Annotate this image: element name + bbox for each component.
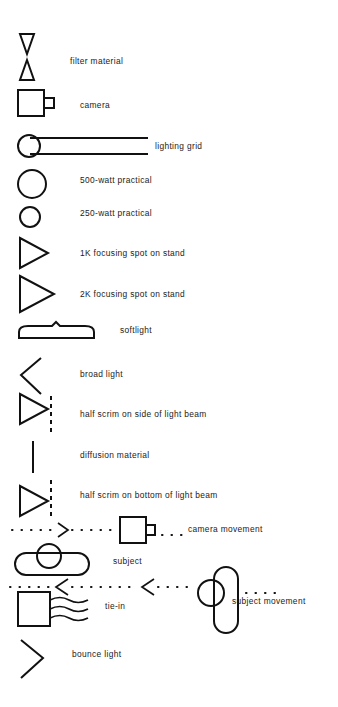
filter-material-label: filter material: [70, 57, 123, 65]
lighting-grid-symbol: [16, 133, 150, 159]
lighting-grid-label: lighting grid: [155, 142, 202, 150]
subject-movement-label: subject movement: [232, 597, 306, 605]
500-watt-practical-symbol: [16, 168, 48, 200]
half-scrim-side-symbol: [17, 392, 55, 436]
softlight-symbol: [16, 320, 98, 344]
2k-focusing-spot-label: 2K focusing spot on stand: [80, 290, 185, 298]
1k-focusing-spot-symbol: [17, 236, 51, 270]
tie-in-symbol: [16, 588, 102, 630]
diffusion-material-label: diffusion material: [80, 451, 149, 459]
camera-symbol: [16, 88, 58, 118]
250-watt-practical-label: 250-watt practical: [80, 209, 152, 217]
lighting-symbol-legend: filter material camera lighting grid 500…: [0, 0, 338, 707]
filter-material-symbol: [16, 32, 42, 82]
250-watt-practical-symbol: [18, 205, 42, 229]
camera-movement-label: camera movement: [188, 525, 263, 533]
2k-focusing-spot-symbol: [17, 274, 57, 314]
1k-focusing-spot-label: 1K focusing spot on stand: [80, 249, 185, 257]
camera-label: camera: [80, 101, 110, 109]
camera-movement-symbol: [8, 513, 188, 545]
500-watt-practical-label: 500-watt practical: [80, 176, 152, 184]
softlight-label: softlight: [120, 326, 152, 334]
half-scrim-side-label: half scrim on side of light beam: [80, 410, 207, 418]
tie-in-label: tie-in: [105, 602, 125, 610]
half-scrim-bottom-label: half scrim on bottom of light beam: [80, 491, 218, 499]
broad-light-symbol: [17, 356, 45, 396]
broad-light-label: broad light: [80, 370, 123, 378]
bounce-light-symbol: [17, 638, 49, 680]
bounce-light-label: bounce light: [72, 650, 121, 658]
diffusion-material-symbol: [28, 440, 38, 474]
